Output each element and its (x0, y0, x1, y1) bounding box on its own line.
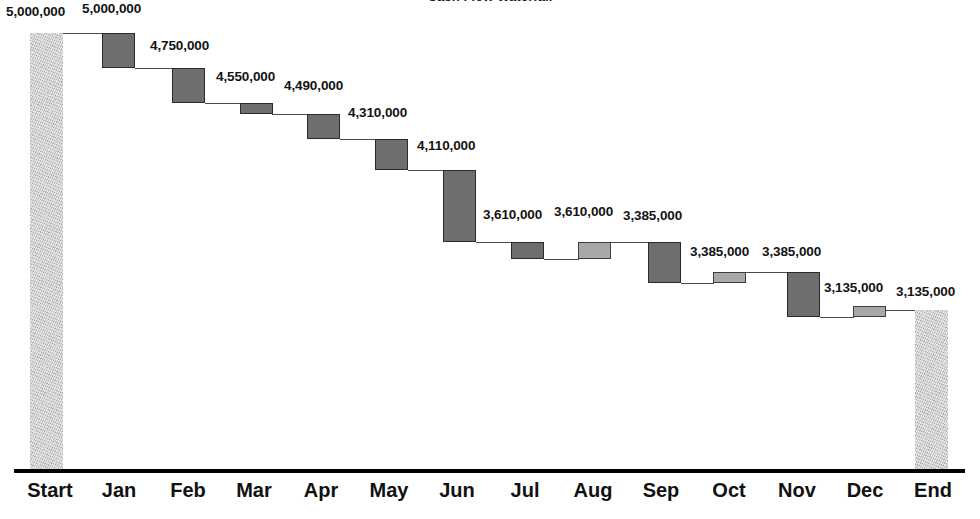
waterfall-connector (340, 139, 376, 140)
bar-mar[interactable] (240, 103, 273, 114)
bar-sep[interactable] (648, 242, 681, 283)
x-axis-line (14, 469, 965, 473)
x-tick-feb: Feb (170, 479, 206, 502)
data-label-dec: 3,135,000 (824, 280, 883, 295)
waterfall-connector (476, 242, 512, 243)
x-tick-jan: Jan (102, 479, 136, 502)
waterfall-connector (610, 242, 649, 243)
data-label-jul: 3,610,000 (483, 207, 542, 222)
data-label-nov: 3,385,000 (762, 244, 821, 259)
data-label-oct: 3,385,000 (690, 244, 749, 259)
bar-oct[interactable] (713, 272, 746, 283)
bar-jun[interactable] (443, 170, 476, 242)
bar-end[interactable] (915, 310, 948, 471)
plot-area: 5,000,0005,000,0004,750,0004,550,0004,49… (0, 0, 980, 472)
data-label-apr: 4,490,000 (284, 78, 343, 93)
bar-jul[interactable] (511, 242, 544, 259)
bar-jan[interactable] (102, 33, 135, 68)
x-tick-aug: Aug (574, 479, 613, 502)
waterfall-connector (820, 317, 854, 318)
waterfall-connector (63, 33, 103, 34)
x-tick-jun: Jun (439, 479, 475, 502)
waterfall-chart: Cash Flow Waterfall 5,000,0005,000,0004,… (0, 0, 980, 519)
bar-start[interactable] (30, 33, 63, 471)
data-label-start: 5,000,000 (6, 4, 65, 19)
data-label-mar: 4,550,000 (216, 69, 275, 84)
bar-nov[interactable] (787, 272, 820, 317)
bar-dec[interactable] (853, 306, 886, 317)
bar-feb[interactable] (172, 68, 205, 103)
data-label-aug: 3,610,000 (554, 204, 613, 219)
data-label-jan: 5,000,000 (82, 1, 141, 16)
x-tick-dec: Dec (847, 479, 884, 502)
bar-aug[interactable] (578, 242, 611, 259)
data-label-jun: 4,110,000 (417, 138, 475, 153)
waterfall-connector (135, 68, 173, 69)
data-label-end: 3,135,000 (896, 284, 955, 299)
waterfall-connector (408, 170, 444, 171)
waterfall-connector (205, 103, 241, 104)
x-tick-start: Start (27, 479, 73, 502)
x-tick-oct: Oct (712, 479, 745, 502)
x-tick-jul: Jul (511, 479, 540, 502)
waterfall-connector (544, 259, 579, 260)
waterfall-connector (745, 272, 788, 273)
x-axis-labels: StartJanFebMarAprMayJunJulAugSepOctNovDe… (0, 479, 980, 513)
waterfall-connector (885, 310, 916, 311)
data-label-feb: 4,750,000 (150, 38, 209, 53)
x-tick-end: End (914, 479, 952, 502)
x-tick-apr: Apr (304, 479, 338, 502)
x-tick-sep: Sep (643, 479, 680, 502)
bar-may[interactable] (375, 139, 408, 170)
bar-apr[interactable] (307, 114, 340, 139)
x-tick-nov: Nov (778, 479, 816, 502)
waterfall-connector (681, 283, 714, 284)
x-tick-may: May (370, 479, 409, 502)
data-label-sep: 3,385,000 (623, 208, 682, 223)
waterfall-connector (272, 114, 308, 115)
data-label-may: 4,310,000 (348, 105, 407, 120)
x-tick-mar: Mar (236, 479, 272, 502)
